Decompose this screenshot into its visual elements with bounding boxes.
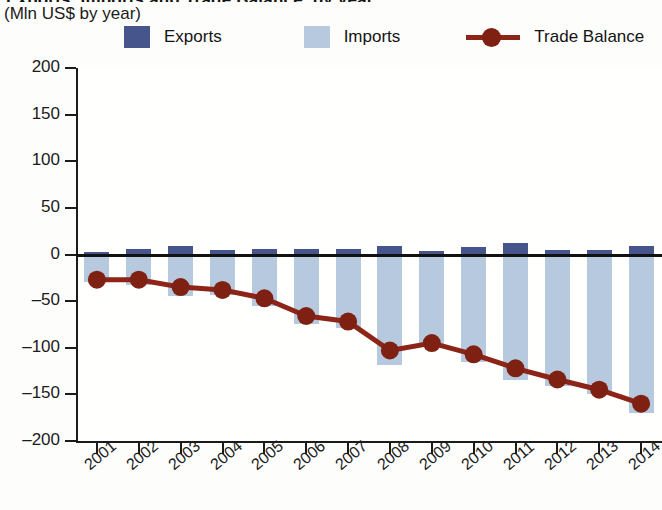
y-tick-mark <box>65 440 76 442</box>
y-tick-label: –100 <box>2 337 60 357</box>
imports-swatch-icon <box>304 26 330 48</box>
legend-label-trade-balance: Trade Balance <box>534 27 644 47</box>
legend-item-imports[interactable]: Imports <box>304 26 401 48</box>
y-tick-label: –50 <box>2 290 60 310</box>
trade-balance-point <box>465 345 483 363</box>
legend-label-exports: Exports <box>164 27 222 47</box>
legend-label-imports: Imports <box>344 27 401 47</box>
trade-balance-point <box>381 342 399 360</box>
y-tick-mark <box>65 207 76 209</box>
trade-balance-point <box>632 395 650 413</box>
chart-subtitle: (Mln US$ by year) <box>4 4 141 24</box>
legend-item-exports[interactable]: Exports <box>124 26 222 48</box>
trade-balance-point <box>339 313 357 331</box>
page-title: Exports, Imports and Trade Balance, by y… <box>6 0 374 2</box>
trade-balance-point <box>255 289 273 307</box>
y-tick-label: 200 <box>2 57 60 77</box>
trade-balance-point <box>423 334 441 352</box>
y-tick-mark <box>65 347 76 349</box>
y-tick-label: –200 <box>2 430 60 450</box>
exports-swatch-icon <box>124 26 150 48</box>
y-tick-mark <box>65 393 76 395</box>
y-tick-mark <box>65 300 76 302</box>
trade-balance-point <box>590 381 608 399</box>
y-tick-label: 0 <box>2 244 60 264</box>
y-tick-label: 100 <box>2 150 60 170</box>
plot-area: 200150100500–50–100–150–200 200120022003… <box>76 68 662 441</box>
chart-legend: Exports Imports Trade Balance <box>124 26 644 48</box>
trade-balance-point <box>130 271 148 289</box>
y-tick-label: –150 <box>2 383 60 403</box>
trade-balance-point <box>548 371 566 389</box>
y-tick-label: 50 <box>2 197 60 217</box>
y-tick-mark <box>65 114 76 116</box>
trade-balance-line-marker-icon <box>466 26 520 48</box>
x-tick-label: 2011 <box>500 438 538 474</box>
trade-balance-point <box>172 278 190 296</box>
y-tick-mark <box>65 160 76 162</box>
trade-balance-point <box>88 271 106 289</box>
trade-balance-point <box>507 359 525 377</box>
y-tick-mark <box>65 67 76 69</box>
trade-balance-point <box>214 281 232 299</box>
legend-item-trade-balance[interactable]: Trade Balance <box>466 26 644 48</box>
trade-balance-point <box>297 307 315 325</box>
chart-page: Exports, Imports and Trade Balance, by y… <box>0 0 662 510</box>
y-tick-mark <box>65 254 76 256</box>
trade-balance-line-layer <box>76 68 662 441</box>
y-tick-label: 150 <box>2 104 60 124</box>
